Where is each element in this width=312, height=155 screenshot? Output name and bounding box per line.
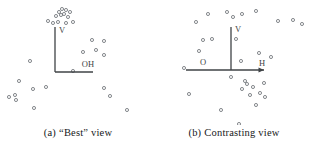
data-point bbox=[257, 51, 260, 54]
data-point bbox=[7, 95, 10, 98]
data-point bbox=[269, 55, 272, 58]
figure-container: VOH (a)“Best” view VOH (b)Contrasting vi… bbox=[0, 0, 312, 155]
data-point bbox=[182, 66, 185, 69]
axis-label-horizontal: H bbox=[259, 58, 265, 68]
data-point bbox=[71, 20, 74, 23]
data-point bbox=[240, 12, 243, 15]
data-point bbox=[234, 37, 237, 40]
data-point bbox=[28, 59, 31, 62]
caption-tag-a: (a) bbox=[44, 127, 56, 138]
data-point bbox=[66, 15, 69, 18]
data-point bbox=[13, 93, 16, 96]
caption-tag-b: (b) bbox=[188, 127, 201, 138]
data-point bbox=[14, 98, 17, 101]
panel-contrasting-view: VOH (b)Contrasting view bbox=[156, 0, 312, 155]
data-point bbox=[31, 87, 34, 90]
data-point bbox=[56, 20, 59, 23]
data-point bbox=[102, 39, 105, 42]
data-point bbox=[102, 86, 105, 89]
data-point bbox=[229, 75, 232, 78]
data-point bbox=[239, 59, 242, 62]
data-point bbox=[201, 38, 204, 41]
data-point bbox=[254, 9, 257, 12]
data-point bbox=[197, 49, 200, 52]
axis-label-vertical: V bbox=[59, 25, 66, 35]
data-point bbox=[17, 79, 20, 82]
data-point bbox=[90, 38, 93, 41]
data-point bbox=[237, 122, 240, 125]
data-point bbox=[231, 15, 234, 18]
data-point bbox=[219, 108, 222, 111]
data-point bbox=[64, 8, 67, 11]
data-point bbox=[81, 50, 84, 53]
caption-text-a: “Best” view bbox=[59, 127, 112, 138]
data-point bbox=[102, 53, 105, 56]
data-point bbox=[262, 81, 265, 84]
data-point bbox=[44, 85, 47, 88]
data-point bbox=[68, 10, 71, 13]
caption-panel-b: (b)Contrasting view bbox=[156, 126, 312, 140]
data-point bbox=[108, 94, 111, 97]
caption-text-b: Contrasting view bbox=[204, 127, 279, 138]
data-point bbox=[60, 7, 63, 10]
data-point bbox=[243, 79, 246, 82]
data-point bbox=[57, 10, 60, 13]
caption-panel-a: (a)“Best” view bbox=[0, 126, 156, 140]
scatter-plot-b: VOH bbox=[156, 0, 312, 125]
data-point bbox=[258, 91, 261, 94]
horizontal-axis-arrowhead bbox=[259, 68, 265, 73]
data-point-group bbox=[182, 9, 303, 125]
data-point bbox=[291, 18, 294, 21]
data-point bbox=[254, 103, 257, 106]
panel-best-view: VOH (a)“Best” view bbox=[0, 0, 156, 155]
data-point bbox=[245, 82, 248, 85]
data-point bbox=[240, 87, 243, 90]
scatter-plot-a: VOH bbox=[0, 0, 156, 125]
data-point bbox=[300, 22, 303, 25]
data-point bbox=[263, 95, 266, 98]
data-point bbox=[251, 85, 254, 88]
data-point bbox=[206, 12, 209, 15]
data-point bbox=[210, 37, 213, 40]
scatter-svg-b: VOH bbox=[156, 0, 312, 125]
data-point bbox=[62, 12, 65, 15]
data-point bbox=[51, 21, 54, 24]
data-point bbox=[94, 48, 97, 51]
data-point-group bbox=[7, 7, 128, 125]
axis-label-origin: O bbox=[200, 57, 206, 67]
data-point bbox=[54, 14, 57, 17]
scatter-svg-a: VOH bbox=[0, 0, 156, 125]
data-point bbox=[32, 106, 35, 109]
data-point bbox=[248, 93, 251, 96]
data-point bbox=[46, 19, 49, 22]
data-point bbox=[187, 92, 190, 95]
data-point bbox=[194, 20, 197, 23]
data-point bbox=[225, 10, 228, 13]
data-point bbox=[125, 108, 128, 111]
axis-label-horizontal: OH bbox=[82, 59, 94, 69]
axis-label-vertical: V bbox=[235, 24, 242, 34]
data-point bbox=[276, 19, 279, 22]
